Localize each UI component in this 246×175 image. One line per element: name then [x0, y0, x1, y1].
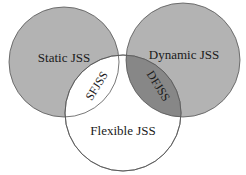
venn-diagram: Static JSS Dynamic JSS Flexible JSS SFJS…	[0, 0, 246, 175]
static-jss-label: Static JSS	[38, 50, 90, 65]
flexible-jss-label: Flexible JSS	[90, 123, 155, 138]
dynamic-jss-label: Dynamic JSS	[149, 47, 219, 62]
